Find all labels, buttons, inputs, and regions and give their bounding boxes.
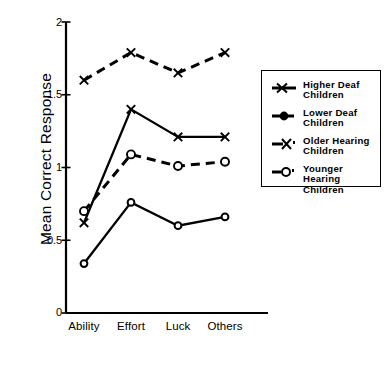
legend-item-younger-hearing: Younger Hearing Children bbox=[272, 164, 344, 195]
series-line bbox=[84, 109, 225, 222]
series-line bbox=[84, 53, 225, 81]
legend-marker-x-dashed-icon bbox=[272, 81, 298, 95]
data-series bbox=[81, 199, 229, 267]
data-series bbox=[80, 105, 229, 227]
figure-canvas: Mean Correct Response 2 1.5 1 0.5 0 Abil… bbox=[0, 0, 387, 377]
data-point-marker bbox=[222, 214, 229, 221]
data-point-marker bbox=[175, 222, 182, 229]
data-point-marker bbox=[128, 199, 135, 206]
legend-label: Younger Hearing Children bbox=[303, 164, 344, 195]
data-point-marker bbox=[81, 260, 88, 267]
legend-item-older-hearing: Older Hearing Children bbox=[272, 136, 370, 157]
data-point-marker bbox=[221, 158, 229, 166]
legend-label: Higher Deaf Children bbox=[303, 80, 360, 101]
data-point-marker bbox=[127, 150, 135, 158]
legend-item-higher-deaf: Higher Deaf Children bbox=[272, 80, 360, 101]
data-point-marker bbox=[80, 207, 88, 215]
legend-label: Lower Deaf Children bbox=[303, 108, 357, 129]
legend-label: Older Hearing Children bbox=[303, 136, 370, 157]
data-point-marker bbox=[174, 162, 182, 170]
legend-item-lower-deaf: Lower Deaf Children bbox=[272, 108, 357, 129]
legend: Higher Deaf Children Lower Deaf Children… bbox=[261, 70, 381, 187]
data-series bbox=[80, 150, 229, 215]
legend-marker-open-circle-dashed-icon bbox=[272, 165, 298, 179]
data-series bbox=[80, 48, 229, 84]
legend-marker-x-solid-icon bbox=[272, 137, 298, 151]
series-line bbox=[84, 202, 225, 263]
series-line bbox=[84, 154, 225, 211]
legend-marker-circle-solid-icon bbox=[272, 109, 298, 123]
